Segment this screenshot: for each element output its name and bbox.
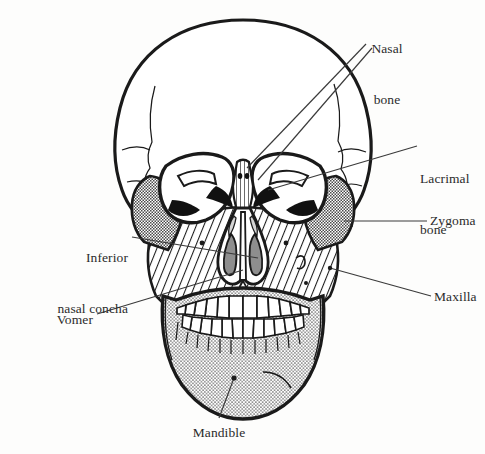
label-nasal-bone: Nasal bone: [357, 6, 417, 142]
label-inferior-nasal-concha-line1: Inferior: [18, 249, 128, 266]
nasal-foramen-left: [238, 173, 243, 179]
label-lacrimal-bone: Lacrimal bone: [420, 136, 485, 272]
infraorbital-foramen-left: [200, 241, 205, 246]
label-inferior-nasal-concha: Inferior nasal concha: [18, 215, 128, 351]
label-vomer: Vomer: [45, 311, 93, 328]
label-mandible: Mandible: [185, 424, 253, 441]
label-lacrimal-bone-line1: Lacrimal: [420, 170, 485, 187]
vomer: [240, 212, 246, 280]
skull-outline: [115, 20, 371, 419]
label-maxilla: Maxilla: [434, 288, 485, 305]
label-nasal-bone-line1: Nasal: [357, 40, 417, 57]
infraorbital-foramen-right: [284, 241, 289, 246]
nasal-foramen-right: [245, 173, 250, 179]
leader-dot-mandible: [231, 375, 236, 380]
leader-dot-maxilla: [328, 266, 332, 270]
leader-maxilla: [330, 268, 431, 296]
label-nasal-bone-line2: bone: [357, 91, 417, 108]
label-zygoma: Zygoma: [430, 212, 485, 229]
nasal-bone: [233, 160, 253, 210]
skull-diagram: Nasal bone Lacrimal bone Zygoma Maxilla …: [0, 0, 485, 454]
maxilla-foramen-right: [304, 281, 308, 285]
